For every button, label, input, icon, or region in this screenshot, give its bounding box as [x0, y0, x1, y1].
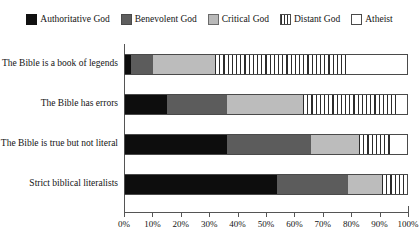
legend-item-authoritative-god: Authoritative God — [26, 14, 109, 25]
bar-segment-authoritative-god — [125, 95, 167, 114]
stacked-bar — [124, 134, 408, 155]
legend-swatch-authoritative-god-icon — [26, 14, 37, 25]
bar-segment-authoritative-god — [125, 135, 227, 154]
x-axis-tick-label: 60% — [286, 219, 303, 230]
y-axis-label-strict-biblical-literalists: Strict biblical literalists — [0, 178, 118, 189]
legend-item-benevolent-god: Benevolent God — [121, 14, 197, 25]
x-axis-tick-label: 10% — [144, 219, 161, 230]
legend-item-distant-god: Distant God — [280, 14, 340, 25]
legend-swatch-distant-god-icon — [280, 14, 291, 25]
bar-segment-critical-god — [311, 135, 359, 154]
stacked-bar — [124, 54, 408, 75]
chart-legend: Authoritative God Benevolent God Critica… — [0, 10, 419, 28]
x-axis-tick — [323, 213, 324, 217]
bar-segment-critical-god — [153, 55, 215, 74]
bar-segment-atheist — [396, 95, 407, 114]
bar-segment-benevolent-god — [167, 95, 226, 114]
x-axis-tick-label: 20% — [173, 219, 190, 230]
legend-label-authoritative-god: Authoritative God — [40, 14, 109, 25]
legend-label-critical-god: Critical God — [222, 14, 269, 25]
y-axis-label-bible-true-not-literal: The Bible is true but not literal — [0, 138, 118, 149]
x-axis-tick-label: 40% — [229, 219, 246, 230]
x-axis-tick-label: 70% — [315, 219, 332, 230]
stacked-bar — [124, 94, 408, 115]
x-axis-tick — [124, 213, 125, 217]
bar-segment-critical-god — [348, 175, 382, 194]
legend-item-critical-god: Critical God — [208, 14, 269, 25]
bar-segment-distant-god — [382, 175, 405, 194]
x-axis-tick — [181, 213, 182, 217]
x-axis-cap-right — [408, 206, 409, 213]
legend-swatch-atheist-icon — [351, 14, 362, 25]
x-axis-tick-label: 100% — [398, 219, 419, 230]
bar-segment-benevolent-god — [131, 55, 154, 74]
x-axis-tick-label: 80% — [343, 219, 360, 230]
x-axis-tick — [351, 213, 352, 217]
x-axis-tick — [209, 213, 210, 217]
bar-segment-distant-god — [303, 95, 396, 114]
bar-segment-benevolent-god — [277, 175, 348, 194]
bar-segment-authoritative-god — [125, 175, 277, 194]
bar-segment-atheist — [404, 175, 407, 194]
bar-segment-atheist — [393, 135, 407, 154]
x-axis-tick — [380, 213, 381, 217]
x-axis-tick-label: 0% — [118, 219, 130, 230]
x-axis-tick — [294, 213, 295, 217]
x-axis-tick-label: 30% — [201, 219, 218, 230]
legend-swatch-benevolent-god-icon — [121, 14, 132, 25]
x-axis-tick-label: 90% — [371, 219, 388, 230]
bar-segment-atheist — [348, 55, 407, 74]
legend-item-atheist: Atheist — [351, 14, 392, 25]
bar-segment-distant-god — [359, 135, 393, 154]
x-axis-tick — [266, 213, 267, 217]
bar-segment-benevolent-god — [227, 135, 312, 154]
x-axis-tick — [408, 213, 409, 217]
y-axis-label-bible-has-errors: The Bible has errors — [0, 98, 118, 109]
legend-label-atheist: Atheist — [365, 14, 392, 25]
legend-swatch-critical-god-icon — [208, 14, 219, 25]
x-axis-tick — [152, 213, 153, 217]
bar-segment-distant-god — [215, 55, 348, 74]
y-axis-label-bible-book-of-legends: The Bible is a book of legends — [0, 58, 118, 69]
legend-label-benevolent-god: Benevolent God — [135, 14, 197, 25]
legend-label-distant-god: Distant God — [294, 14, 340, 25]
x-axis-cap-left — [124, 206, 125, 213]
x-axis-tick-label: 50% — [258, 219, 275, 230]
bar-segment-critical-god — [227, 95, 303, 114]
x-axis-tick — [238, 213, 239, 217]
stacked-bar — [124, 174, 408, 195]
